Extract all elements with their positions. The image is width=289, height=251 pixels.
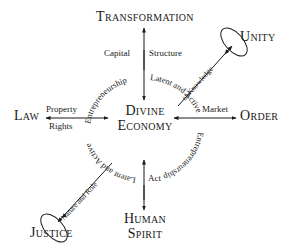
- node-human-spirit-line1: Human: [120, 212, 170, 227]
- label-structure: Structure: [149, 48, 182, 58]
- node-unity: Unity: [240, 30, 276, 45]
- node-human-spirit-line2: Spirit: [120, 227, 170, 242]
- node-justice: Justice: [30, 226, 73, 241]
- label-rights: Rights: [49, 121, 73, 131]
- node-human-spirit: Human Spirit: [120, 212, 170, 241]
- label-market: Market: [202, 104, 228, 114]
- ring-text-lower-left: Latent and Active: [83, 142, 137, 186]
- ring-text-right: Entrepreneurship: [162, 132, 206, 183]
- label-nature-and-role: Nature and Role: [59, 179, 100, 222]
- node-order: Order: [240, 109, 278, 124]
- center-line2: Economy: [110, 119, 180, 134]
- center-line1: Divine: [110, 104, 180, 119]
- label-property: Property: [46, 104, 77, 114]
- center-divine-economy: Divine Economy: [110, 104, 180, 133]
- node-law: Law: [14, 109, 39, 124]
- node-transformation: Transformation: [86, 10, 204, 25]
- label-capital: Capital: [104, 48, 130, 58]
- label-act: Act: [148, 173, 161, 183]
- label-of-knowledge: of Knowledge: [179, 64, 215, 102]
